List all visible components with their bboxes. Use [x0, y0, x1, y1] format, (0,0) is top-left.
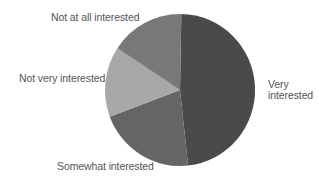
- label-somewhat-interested: Somewhat interested: [57, 161, 154, 172]
- label-not-very-interested: Not very interested: [19, 73, 105, 84]
- pie-slice-very-interested: [180, 14, 255, 166]
- pie-slices: [105, 14, 255, 166]
- label-very-line2: interested: [268, 90, 313, 101]
- label-very-interested: Very interested: [268, 79, 313, 101]
- label-not-at-all-interested: Not at all interested: [51, 12, 139, 23]
